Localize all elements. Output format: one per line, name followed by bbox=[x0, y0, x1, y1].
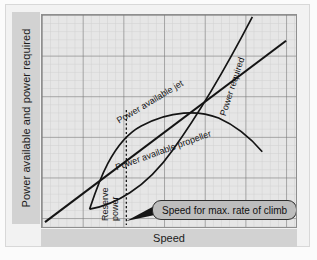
curve-power-available-propeller bbox=[90, 113, 263, 209]
max-climb-speed-callout: Speed for max. rate of climb bbox=[152, 200, 297, 220]
curve-power-required bbox=[90, 17, 253, 209]
figure-container: Power available and power required bbox=[0, 0, 317, 260]
curves bbox=[42, 15, 296, 227]
plot-area: Power available jet Power required Power… bbox=[41, 14, 297, 228]
y-axis-label: Power available and power required bbox=[12, 12, 40, 224]
curve-power-available-jet bbox=[45, 41, 286, 222]
x-axis-label: Speed bbox=[41, 229, 297, 247]
